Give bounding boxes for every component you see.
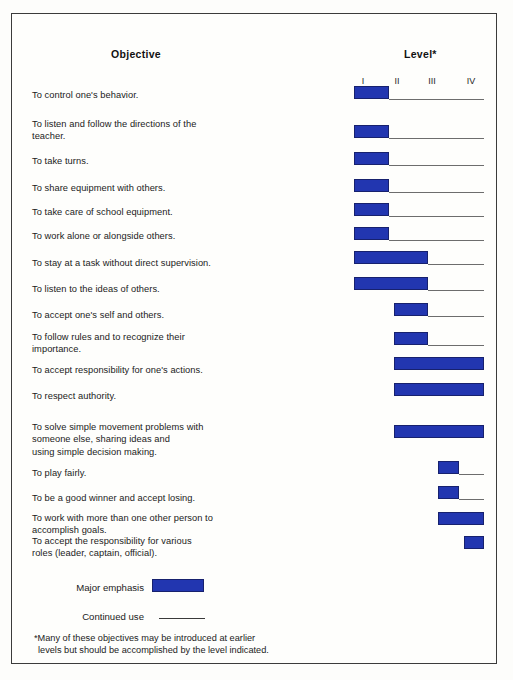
continued-use-line [428,345,484,346]
objective-label-line: To accept responsibility for one's actio… [32,364,332,376]
objective-label: To control one's behavior. [32,89,332,101]
column-header-objective: Objective [111,48,161,60]
continued-use-line [389,99,484,100]
objective-label-line: To be a good winner and accept losing. [32,492,332,504]
objective-label-line: To work alone or alongside others. [32,230,332,242]
objective-label-line: To follow rules and to recognize their [32,331,332,343]
objective-label: To accept the responsibility for various… [32,535,332,560]
objective-label: To solve simple movement problems withso… [32,421,332,458]
level-tick-iii: III [420,76,444,86]
page-canvas: Objective Level* IIIIIIIV To control one… [0,0,513,680]
major-emphasis-bar [354,203,389,216]
objective-label: To take turns. [32,155,332,167]
major-emphasis-bar [354,179,389,192]
major-emphasis-bar [438,486,459,499]
objective-label-line: To listen to the ideas of others. [32,283,332,295]
level-tick-iv: IV [459,76,483,86]
objective-label: To take care of school equipment. [32,206,332,218]
level-tick-i: I [351,76,375,86]
footnote-line-1: *Many of these objectives may be introdu… [34,632,364,644]
major-emphasis-bar [354,251,428,264]
major-emphasis-bar [394,303,428,316]
objective-label-line: To share equipment with others. [32,182,332,194]
objective-label: To listen and follow the directions of t… [32,118,332,143]
objective-label-line: To take care of school equipment. [32,206,332,218]
legend-continued-use-line [159,618,205,619]
major-emphasis-bar [438,512,484,525]
continued-use-line [459,499,484,500]
major-emphasis-bar [354,86,389,99]
continued-use-line [389,138,484,139]
objective-label-line: using simple decision making. [32,446,332,458]
objective-label: To work alone or alongside others. [32,230,332,242]
objective-label-line: someone else, sharing ideas and [32,433,332,445]
objective-label-line: To play fairly. [32,467,332,479]
major-emphasis-bar [354,125,389,138]
objective-label: To follow rules and to recognize theirim… [32,331,332,356]
continued-use-line [428,316,484,317]
objective-label-line: To accept one's self and others. [32,309,332,321]
objective-label-line: To control one's behavior. [32,89,332,101]
footnote: *Many of these objectives may be introdu… [34,632,364,656]
major-emphasis-bar [394,357,484,370]
continued-use-line [459,474,484,475]
column-header-level: Level* [404,48,437,60]
major-emphasis-bar [394,425,484,438]
objective-label-line: To solve simple movement problems with [32,421,332,433]
major-emphasis-bar [394,332,428,345]
objective-label: To share equipment with others. [32,182,332,194]
objective-label-line: To respect authority. [32,390,332,402]
continued-use-line [389,192,484,193]
objective-label: To stay at a task without direct supervi… [32,257,332,269]
objective-label: To work with more than one other person … [32,512,332,537]
major-emphasis-bar [354,277,428,290]
legend-major-emphasis-swatch [152,579,204,592]
major-emphasis-bar [438,461,459,474]
continued-use-line [428,290,484,291]
objective-label: To be a good winner and accept losing. [32,492,332,504]
legend-major-emphasis-label: Major emphasis [32,582,144,593]
objective-label: To listen to the ideas of others. [32,283,332,295]
objective-label-line: importance. [32,343,332,355]
objective-label: To accept responsibility for one's actio… [32,364,332,376]
objective-label-line: To stay at a task without direct supervi… [32,257,332,269]
objective-label: To respect authority. [32,390,332,402]
continued-use-line [389,240,484,241]
legend-continued-use-label: Continued use [32,611,144,622]
major-emphasis-bar [464,536,484,549]
chart-frame: Objective Level* IIIIIIIV To control one… [11,13,497,664]
major-emphasis-bar [354,227,389,240]
objective-label: To play fairly. [32,467,332,479]
level-tick-ii: II [385,76,409,86]
objective-label-line: teacher. [32,130,332,142]
footnote-line-2: levels but should be accomplished by the… [34,644,364,656]
major-emphasis-bar [354,152,389,165]
continued-use-line [428,264,484,265]
objective-label-line: roles (leader, captain, official). [32,547,332,559]
objective-label-line: To listen and follow the directions of t… [32,118,332,130]
continued-use-line [389,165,484,166]
major-emphasis-bar [394,383,484,396]
objective-label-line: To take turns. [32,155,332,167]
objective-label: To accept one's self and others. [32,309,332,321]
objective-label-line: To accept the responsibility for various [32,535,332,547]
objective-label-line: To work with more than one other person … [32,512,332,524]
continued-use-line [389,216,484,217]
